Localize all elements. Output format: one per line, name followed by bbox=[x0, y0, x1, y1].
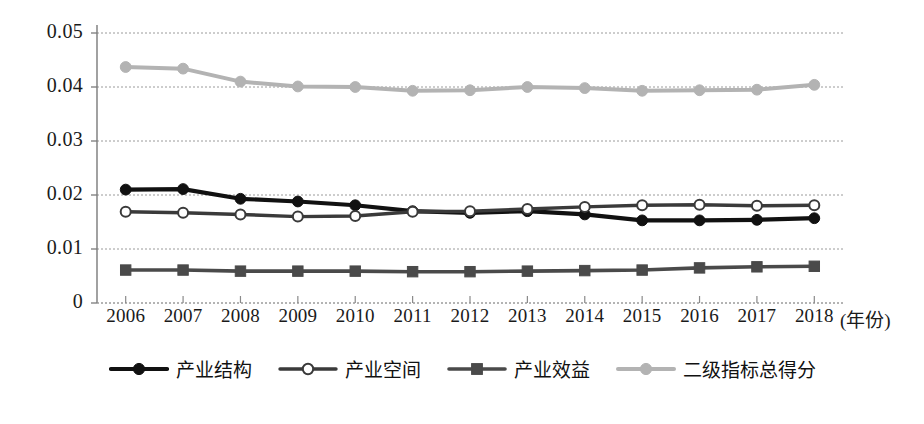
x-tick-label: 2009 bbox=[270, 305, 326, 327]
legend-label: 二级指标总得分 bbox=[683, 355, 816, 382]
data-point-marker bbox=[293, 212, 303, 222]
data-point-marker bbox=[752, 201, 762, 211]
legend-point bbox=[471, 363, 482, 374]
data-point-marker bbox=[637, 85, 648, 96]
y-tick-label: 0.01 bbox=[11, 236, 83, 259]
data-point-marker bbox=[522, 204, 532, 214]
data-point-marker bbox=[350, 211, 360, 221]
legend-marker-icon bbox=[278, 359, 338, 379]
legend-item-1[interactable]: 产业结构 bbox=[109, 355, 252, 382]
data-point-marker bbox=[637, 215, 648, 226]
legend-point bbox=[640, 363, 651, 374]
data-point-marker bbox=[235, 266, 245, 276]
x-tick-label: 2016 bbox=[672, 305, 728, 327]
series-layer bbox=[120, 62, 819, 277]
data-point-marker bbox=[694, 215, 705, 226]
legend-label: 产业空间 bbox=[345, 355, 421, 382]
x-tick-label: 2010 bbox=[327, 305, 383, 327]
x-tick-label: 2015 bbox=[614, 305, 670, 327]
data-point-marker bbox=[465, 266, 475, 276]
series-3 bbox=[120, 261, 819, 277]
x-tick-label: 2011 bbox=[385, 305, 441, 327]
data-point-marker bbox=[235, 209, 245, 219]
legend-point bbox=[133, 363, 144, 374]
data-point-marker bbox=[694, 85, 705, 96]
data-point-marker bbox=[809, 261, 819, 271]
data-point-marker bbox=[465, 85, 476, 96]
x-tick-label: 2006 bbox=[98, 305, 154, 327]
data-point-marker bbox=[178, 63, 189, 74]
data-point-marker bbox=[178, 265, 188, 275]
data-point-marker bbox=[292, 81, 303, 92]
data-point-marker bbox=[350, 200, 361, 211]
data-point-marker bbox=[752, 214, 763, 225]
legend-item-4[interactable]: 二级指标总得分 bbox=[616, 355, 816, 382]
x-tick-label: 2013 bbox=[499, 305, 555, 327]
line-chart: 0.050.040.030.020.010 200620072008200920… bbox=[0, 0, 924, 424]
legend-marker-icon bbox=[616, 359, 676, 379]
x-tick-label: 2008 bbox=[212, 305, 268, 327]
data-point-marker bbox=[522, 266, 532, 276]
data-point-marker bbox=[465, 206, 475, 216]
legend-point bbox=[302, 363, 312, 373]
legend-item-2[interactable]: 产业空间 bbox=[278, 355, 421, 382]
y-tick-label: 0.05 bbox=[11, 20, 83, 43]
data-point-marker bbox=[120, 265, 130, 275]
axis-lines bbox=[91, 25, 843, 303]
data-point-marker bbox=[293, 266, 303, 276]
data-point-marker bbox=[695, 200, 705, 210]
data-point-marker bbox=[235, 193, 246, 204]
y-tick-label: 0.02 bbox=[11, 182, 83, 205]
data-point-marker bbox=[178, 208, 188, 218]
data-point-marker bbox=[178, 184, 189, 195]
y-tick-label: 0.03 bbox=[11, 128, 83, 151]
legend-item-3[interactable]: 产业效益 bbox=[447, 355, 590, 382]
chart-legend: 产业结构产业空间产业效益二级指标总得分 bbox=[0, 355, 924, 382]
data-point-marker bbox=[407, 266, 417, 276]
data-point-marker bbox=[637, 200, 647, 210]
data-point-marker bbox=[580, 265, 590, 275]
x-tick-label: 2012 bbox=[442, 305, 498, 327]
data-point-marker bbox=[809, 79, 820, 90]
data-point-marker bbox=[809, 213, 820, 224]
data-point-marker bbox=[292, 196, 303, 207]
x-tick-marks bbox=[126, 296, 815, 303]
data-point-marker bbox=[580, 202, 590, 212]
data-point-marker bbox=[121, 207, 131, 217]
data-point-marker bbox=[579, 83, 590, 94]
data-point-marker bbox=[235, 76, 246, 87]
data-point-marker bbox=[637, 265, 647, 275]
data-point-marker bbox=[752, 84, 763, 95]
x-tick-label: 2017 bbox=[729, 305, 785, 327]
x-tick-label: 2007 bbox=[155, 305, 211, 327]
legend-label: 产业效益 bbox=[514, 355, 590, 382]
data-point-marker bbox=[752, 262, 762, 272]
data-point-marker bbox=[522, 82, 533, 93]
legend-label: 产业结构 bbox=[176, 355, 252, 382]
legend-marker-icon bbox=[447, 359, 507, 379]
x-axis-title: (年份) bbox=[840, 305, 891, 332]
y-tick-label: 0.04 bbox=[11, 74, 83, 97]
x-tick-label: 2018 bbox=[786, 305, 842, 327]
data-point-marker bbox=[120, 184, 131, 195]
data-point-marker bbox=[407, 85, 418, 96]
data-point-marker bbox=[809, 200, 819, 210]
series-4 bbox=[120, 62, 819, 97]
data-point-marker bbox=[120, 62, 131, 73]
data-point-marker bbox=[694, 263, 704, 273]
data-point-marker bbox=[350, 266, 360, 276]
x-tick-label: 2014 bbox=[557, 305, 613, 327]
y-tick-label: 0 bbox=[11, 290, 83, 313]
data-point-marker bbox=[350, 82, 361, 93]
legend-marker-icon bbox=[109, 359, 169, 379]
data-point-marker bbox=[408, 207, 418, 217]
